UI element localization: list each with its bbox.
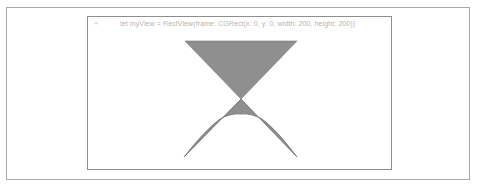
top-triangle-shape — [185, 41, 297, 99]
lower-curved-shape — [184, 99, 297, 157]
playground-live-view: + let myView = RectView(frame: CGRect(x:… — [87, 16, 392, 170]
rect-view-drawing — [88, 17, 393, 171]
